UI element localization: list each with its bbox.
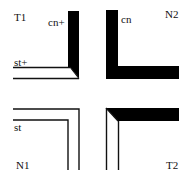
n2-shape: [106, 10, 179, 79]
label-st: st: [14, 122, 21, 133]
label-cn: cn: [121, 14, 131, 25]
label-st-plus: st+: [14, 57, 28, 68]
label-n1: N1: [16, 160, 29, 171]
label-t2: T2: [166, 160, 178, 171]
label-n2: N2: [165, 9, 178, 20]
label-t1: T1: [14, 12, 26, 23]
label-cn-plus: cn+: [48, 17, 65, 28]
corner-diagram: T1 cn+ st+ N2 cn st N1 T2: [0, 0, 189, 179]
diagram-shapes: [0, 0, 189, 179]
